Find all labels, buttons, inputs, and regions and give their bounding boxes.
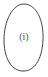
oval-label: (i) xyxy=(0,31,48,42)
